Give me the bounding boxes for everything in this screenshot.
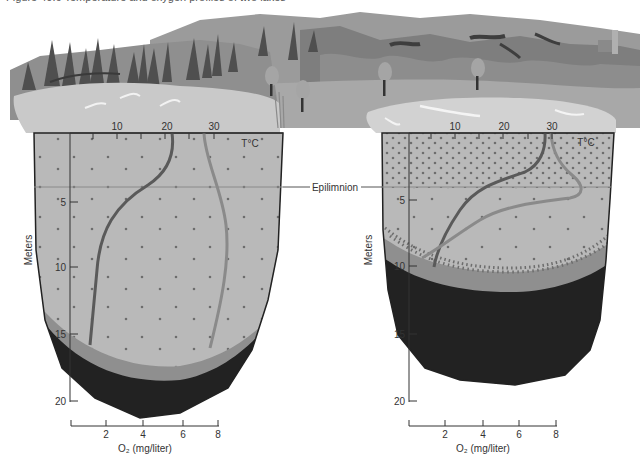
right-depth-tick-20: 20 [394,396,406,407]
left-temp-tick-20: 20 [161,121,173,132]
right-depth-tick-15: 15 [394,329,406,340]
left-oxygen-axis: 2 4 6 8 O₂ (mg/liter) [71,420,221,454]
left-depth-label: Meters [23,235,34,266]
right-o2-tick-6: 6 [516,429,522,440]
right-depth-label: Meters [363,235,374,266]
left-o2-tick-6: 6 [180,429,186,440]
lake-profiles-figure: 10 20 30 T°C 5 10 15 20 Meters 2 4 6 8 O… [0,0,643,465]
left-depth-tick-5: 5 [60,197,66,208]
right-temp-tick-30: 30 [546,121,558,132]
right-temp-tick-10: 10 [449,121,461,132]
right-o2-tick-4: 4 [480,429,486,440]
epilimnion-text: Epilimnion [312,182,358,193]
epilimnion-label: Epilimnion [283,182,382,193]
left-depth-tick-20: 20 [55,396,67,407]
right-o2-label: O₂ (mg/liter) [456,443,510,454]
right-depth-tick-10: 10 [394,261,406,272]
right-temp-unit: T°C [577,137,594,148]
left-o2-tick-8: 8 [215,429,221,440]
landscape-illustration [10,12,640,133]
silo-icon [612,30,618,54]
right-o2-tick-8: 8 [553,429,559,440]
left-temp-tick-10: 10 [111,121,123,132]
left-depth-tick-15: 15 [55,329,67,340]
left-temp-tick-30: 30 [208,121,220,132]
left-temp-unit: T°C [241,138,258,149]
left-o2-label: O₂ (mg/liter) [118,443,172,454]
right-depth-tick-5: 5 [399,195,405,206]
right-oxygen-axis: 2 4 6 8 O₂ (mg/liter) [409,420,559,454]
left-lake-cross-section [20,130,290,430]
right-temp-tick-20: 20 [498,121,510,132]
right-lake-cross-section [370,130,620,390]
left-o2-tick-4: 4 [140,429,146,440]
left-depth-tick-10: 10 [55,262,67,273]
right-o2-tick-2: 2 [442,429,448,440]
left-o2-tick-2: 2 [103,429,109,440]
